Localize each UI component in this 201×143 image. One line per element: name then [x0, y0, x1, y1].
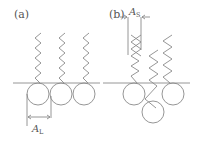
spring-a3: [83, 33, 89, 83]
circle-a3: [73, 83, 95, 105]
dim-label-b-main: A: [128, 6, 136, 17]
spring-b2: [145, 50, 158, 108]
spring-a1: [35, 33, 41, 83]
diagram-canvas: (a) (b) A L A S: [0, 0, 201, 143]
dim-label-b-sub: S: [136, 11, 140, 19]
panel-label-a: (a): [14, 8, 29, 21]
circle-b1: [123, 83, 145, 105]
spring-b3: [163, 35, 172, 83]
circle-b3: [142, 101, 164, 123]
circle-a1: [27, 83, 49, 105]
dim-label-a-main: A: [31, 123, 39, 134]
dim-label-a-sub: L: [39, 128, 44, 136]
circle-a2: [50, 83, 72, 105]
panel-label-b: (b): [109, 8, 125, 21]
spring-b1: [131, 35, 141, 83]
circle-b2: [162, 83, 184, 105]
spring-b1-overlap: [131, 35, 141, 56]
spring-a2: [59, 33, 65, 83]
diagram-svg: (a) (b) A L A S: [0, 0, 201, 143]
